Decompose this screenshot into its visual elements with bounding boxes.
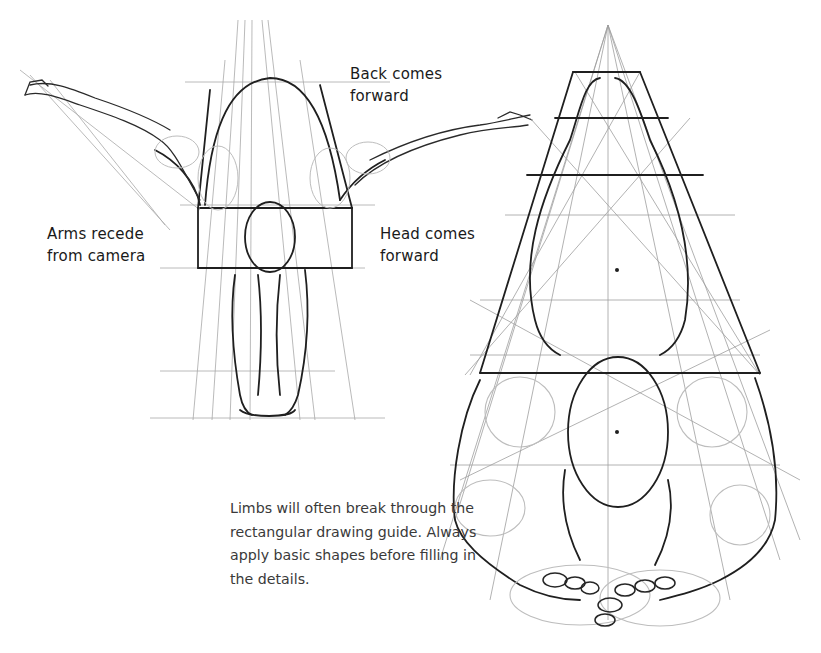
annotation-arms-recede: Arms recede from camera (47, 223, 146, 267)
annotation-back-line2: forward (350, 85, 442, 107)
annotation-back-line1: Back comes (350, 63, 442, 85)
caption-line4: the details. (230, 568, 430, 592)
annotation-arms-line1: Arms recede (47, 223, 146, 245)
annotation-arms-line2: from camera (47, 245, 146, 267)
caption-line1: Limbs will often break through the (230, 497, 430, 521)
caption-text: Limbs will often break through the recta… (230, 497, 430, 591)
annotation-head-comes-forward: Head comes forward (380, 223, 475, 267)
annotation-back-comes-forward: Back comes forward (350, 63, 442, 107)
caption-line3: apply basic shapes before filling in (230, 544, 430, 568)
annotation-head-line1: Head comes (380, 223, 475, 245)
caption-line2: rectangular drawing guide. Always (230, 521, 430, 545)
illustration-page: Back comes forward Arms recede from came… (0, 0, 821, 653)
annotation-head-line2: forward (380, 245, 475, 267)
